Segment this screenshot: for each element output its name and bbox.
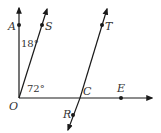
label-A: A bbox=[7, 20, 16, 33]
angle-SOE-label: 72° bbox=[27, 83, 45, 94]
label-S: S bbox=[45, 20, 53, 33]
label-R: R bbox=[62, 108, 71, 121]
point-A bbox=[17, 23, 21, 27]
label-C: C bbox=[83, 85, 92, 98]
point-T bbox=[100, 23, 104, 27]
point-R bbox=[71, 113, 75, 117]
point-E bbox=[119, 96, 123, 100]
point-S bbox=[40, 23, 44, 27]
label-O: O bbox=[9, 100, 18, 113]
geometry-diagram: A S T O C E R 18° 72° bbox=[0, 0, 161, 133]
label-E: E bbox=[116, 82, 125, 95]
label-T: T bbox=[105, 20, 114, 33]
angle-AOS-label: 18° bbox=[21, 38, 39, 49]
